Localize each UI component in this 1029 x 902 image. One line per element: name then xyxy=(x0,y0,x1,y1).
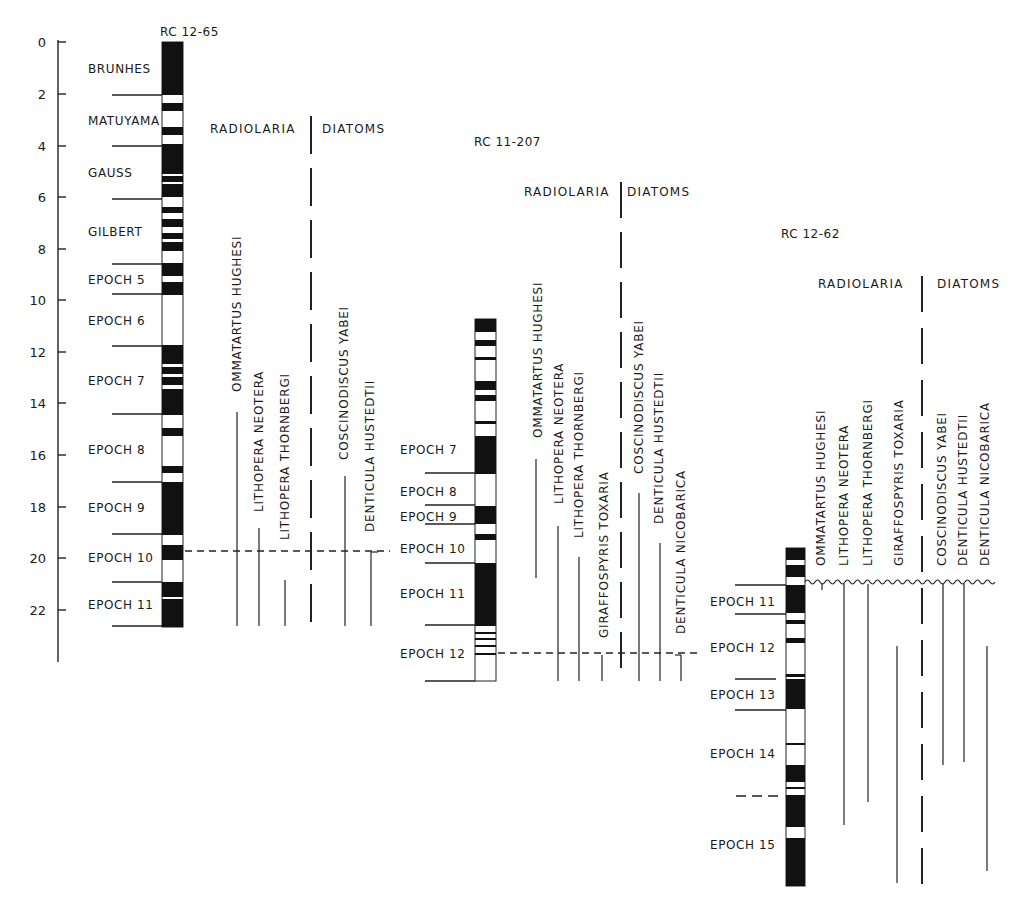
zone-label: EPOCH 12 xyxy=(400,647,466,661)
zone-label: EPOCH 12 xyxy=(710,641,776,655)
taxon-label: LITHOPERA THORNBERGI xyxy=(572,371,586,538)
zone-label: EPOCH 8 xyxy=(88,443,145,457)
taxon-ranges xyxy=(822,584,987,883)
zone-label: EPOCH 11 xyxy=(710,595,776,609)
zone-label: EPOCH 11 xyxy=(400,587,466,601)
taxon-label: COSCINODISCUS YABEI xyxy=(337,306,351,460)
taxon-label: LITHOPERA THORNBERGI xyxy=(278,373,292,540)
group-label-radiolaria: RADIOLARIA xyxy=(818,277,904,291)
zone-label: EPOCH 5 xyxy=(88,273,145,287)
zone-label: EPOCH 8 xyxy=(400,485,457,499)
taxon-label: COSCINODISCUS YABEI xyxy=(632,320,646,474)
core-rc-11-207: RC 11-207 xyxy=(400,135,690,681)
zone-label: EPOCH 9 xyxy=(400,510,457,524)
zone-label: EPOCH 6 xyxy=(88,314,145,328)
diagram-canvas: 0 2 4 6 8 10 12 14 16 18 20 22 RC 12-65 xyxy=(0,0,1029,902)
taxon-label: DENTICULA NICOBARICA xyxy=(978,402,992,566)
taxon-label: DENTICULA HUSTEDTII xyxy=(652,372,666,524)
zone-labels: BRUNHES MATUYAMA GAUSS GILBERT EPOCH 5 E… xyxy=(88,62,160,612)
taxon-label: OMMATARTUS HUGHESI xyxy=(814,410,828,566)
taxon-label: OMMATARTUS HUGHESI xyxy=(531,282,545,438)
depth-axis xyxy=(58,40,66,662)
tick-label: 20 xyxy=(29,551,46,566)
taxon-label: LITHOPERA THORNBERGI xyxy=(861,399,875,566)
group-label-radiolaria: RADIOLARIA xyxy=(524,185,610,199)
tick-label: 16 xyxy=(29,448,46,463)
polarity-column xyxy=(786,548,805,886)
zone-label: MATUYAMA xyxy=(88,114,160,128)
tick-label: 2 xyxy=(38,87,46,102)
zone-labels: EPOCH 7 EPOCH 8 EPOCH 9 EPOCH 10 EPOCH 1… xyxy=(400,443,466,661)
taxon-label: OMMATARTUS HUGHESI xyxy=(230,236,244,392)
polarity-column xyxy=(162,42,183,627)
tick-label: 22 xyxy=(29,603,46,618)
zone-label: EPOCH 13 xyxy=(710,688,776,702)
tick-label: 18 xyxy=(29,500,46,515)
core-title: RC 11-207 xyxy=(474,135,541,149)
taxon-labels: OMMATARTUS HUGHESI LITHOPERA NEOTERA LIT… xyxy=(814,399,992,566)
taxon-label: LITHOPERA NEOTERA xyxy=(552,363,566,504)
tick-label: 6 xyxy=(38,190,46,205)
taxon-labels: OMMATARTUS HUGHESI LITHOPERA NEOTERA LIT… xyxy=(531,282,688,638)
taxon-label: GIRAFFOSPYRIS TOXARIA xyxy=(892,399,906,566)
core-rc-12-62: RC 12-62 xyxy=(710,227,1000,886)
zone-label: BRUNHES xyxy=(88,62,151,76)
tick-label: 0 xyxy=(38,35,46,50)
zone-label: EPOCH 10 xyxy=(88,551,154,565)
tick-label: 14 xyxy=(29,396,46,411)
taxon-label: DENTICULA NICOBARICA xyxy=(674,470,688,634)
taxon-label: LITHOPERA NEOTERA xyxy=(252,371,266,512)
taxon-label: GIRAFFOSPYRIS TOXARIA xyxy=(597,471,611,638)
tick-label: 10 xyxy=(29,293,46,308)
taxon-label: DENTICULA HUSTEDTII xyxy=(956,414,970,566)
zone-label: EPOCH 15 xyxy=(710,838,776,852)
zone-label: EPOCH 11 xyxy=(88,598,154,612)
taxon-labels: OMMATARTUS HUGHESI LITHOPERA NEOTERA LIT… xyxy=(230,236,377,540)
group-label-radiolaria: RADIOLARIA xyxy=(210,122,296,136)
core-title: RC 12-65 xyxy=(160,25,219,39)
zone-labels: EPOCH 11 EPOCH 12 EPOCH 13 EPOCH 14 EPOC… xyxy=(710,595,776,852)
core-title: RC 12-62 xyxy=(781,227,840,241)
group-label-diatoms: DIATOMS xyxy=(322,122,385,136)
zone-label: GILBERT xyxy=(88,225,142,239)
depth-axis-tick-labels: 0 2 4 6 8 10 12 14 16 18 20 22 xyxy=(29,35,46,618)
group-label-diatoms: DIATOMS xyxy=(627,185,690,199)
polarity-column xyxy=(475,319,496,681)
zone-label: EPOCH 14 xyxy=(710,747,776,761)
core-rc-12-65: RC 12-65 xyxy=(88,25,385,627)
taxon-label: LITHOPERA NEOTERA xyxy=(837,425,851,566)
zone-label: EPOCH 7 xyxy=(400,443,457,457)
zone-label: GAUSS xyxy=(88,166,133,180)
taxon-label: DENTICULA HUSTEDTII xyxy=(363,380,377,532)
zone-label: EPOCH 7 xyxy=(88,374,145,388)
tick-label: 8 xyxy=(38,242,46,257)
tick-label: 4 xyxy=(38,139,46,154)
unconformity-line xyxy=(805,580,995,584)
taxon-label: COSCINODISCUS YABEI xyxy=(935,412,949,566)
zone-label: EPOCH 9 xyxy=(88,501,145,515)
group-label-diatoms: DIATOMS xyxy=(937,277,1000,291)
tick-label: 12 xyxy=(29,345,46,360)
stratigraphic-correlation-diagram: 0 2 4 6 8 10 12 14 16 18 20 22 RC 12-65 xyxy=(0,0,1029,902)
zone-label: EPOCH 10 xyxy=(400,542,466,556)
